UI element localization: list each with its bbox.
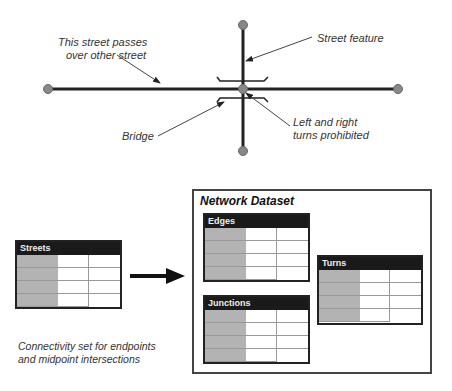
node-right	[394, 85, 403, 94]
arrow-street-feature	[246, 37, 312, 61]
arrow-turns	[246, 93, 290, 126]
edges-table: Edges	[203, 213, 310, 282]
node-left	[44, 85, 53, 94]
node-top	[239, 21, 248, 30]
node-bottom	[239, 147, 248, 156]
label-street-feature: Street feature	[317, 32, 384, 45]
table-header: Turns	[319, 257, 421, 270]
arrow-right-icon	[128, 268, 186, 284]
arrow-bridge	[158, 102, 224, 136]
turns-table: Turns	[317, 255, 423, 325]
junctions-table: Junctions	[203, 295, 310, 364]
label-bridge: Bridge	[122, 130, 154, 143]
label-passes-over: This street passes over other street	[58, 36, 147, 62]
label-turns-prohibited: Left and right turns prohibited	[293, 116, 369, 142]
streets-table: Streets	[15, 240, 122, 309]
table-header: Streets	[17, 242, 120, 255]
node-center	[239, 85, 248, 94]
street-diagram	[0, 0, 452, 180]
table-header: Junctions	[205, 297, 308, 310]
network-dataset-title: Network Dataset	[200, 194, 294, 208]
table-header: Edges	[205, 215, 308, 228]
label-connectivity: Connectivity set for endpoints and midpo…	[18, 340, 156, 366]
